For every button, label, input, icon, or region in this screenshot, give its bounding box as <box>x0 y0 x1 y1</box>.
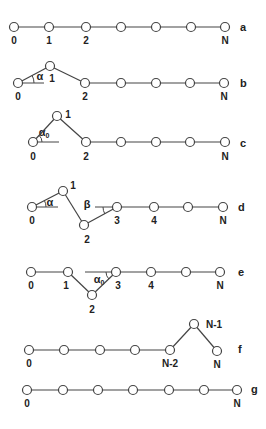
chain-node <box>190 320 199 329</box>
chain-node <box>94 386 103 395</box>
node-label: 2 <box>82 91 88 102</box>
node-label: 0 <box>28 280 34 291</box>
chain-node <box>117 138 126 147</box>
node-label: N <box>221 35 228 46</box>
row-d: αβ01234Nd <box>28 180 245 245</box>
row-c: α0012Nc <box>29 109 247 162</box>
node-label: N <box>220 91 227 102</box>
chain-node <box>117 79 126 88</box>
node-label: 2 <box>83 35 89 46</box>
chain-node <box>216 268 225 277</box>
node-label: 2 <box>89 304 95 315</box>
node-label: N-2 <box>162 358 179 369</box>
row-label: g <box>251 383 258 395</box>
chain-node <box>64 268 73 277</box>
chain-node <box>59 187 68 196</box>
node-label: N <box>216 280 223 291</box>
chain-node <box>81 79 90 88</box>
node-label: N <box>233 398 240 409</box>
chain-node <box>82 138 91 147</box>
node-label: 1 <box>65 109 71 120</box>
node-label: 2 <box>84 234 90 245</box>
chain-node <box>182 268 191 277</box>
node-label: 1 <box>46 35 52 46</box>
node-label: N-1 <box>206 319 223 330</box>
bond-line <box>57 116 86 142</box>
chain-node <box>29 138 38 147</box>
angle-subscript: 0 <box>45 132 49 139</box>
row-g: 0Ng <box>23 383 258 409</box>
node-label: 0 <box>24 398 30 409</box>
node-label: N <box>213 359 220 370</box>
angle-label: β <box>84 198 91 210</box>
angle-arc <box>32 75 34 83</box>
chain-node <box>25 346 34 355</box>
node-label: 4 <box>151 215 157 226</box>
node-label: 0 <box>30 151 36 162</box>
chain-node <box>131 346 140 355</box>
node-label: N <box>219 215 226 226</box>
node-label: N <box>221 151 228 162</box>
chain-node <box>117 23 126 32</box>
chain-node <box>200 386 209 395</box>
chain-node <box>186 79 195 88</box>
chain-node <box>23 386 32 395</box>
node-label: 1 <box>49 73 55 84</box>
chain-node <box>220 79 229 88</box>
chain-node <box>27 268 36 277</box>
chain-node <box>152 79 161 88</box>
chain-node <box>96 346 105 355</box>
chain-node <box>147 268 156 277</box>
node-label: 2 <box>83 151 89 162</box>
chain-node <box>129 386 138 395</box>
row-label: f <box>238 343 242 355</box>
angle-arc <box>106 272 109 279</box>
angle-label: α0 <box>39 126 50 139</box>
chain-node <box>152 138 161 147</box>
node-label: 0 <box>15 91 21 102</box>
row-label: b <box>240 77 247 89</box>
chain-node <box>82 23 91 32</box>
row-label: c <box>240 137 246 149</box>
row-e: α001234Ne <box>27 266 245 315</box>
chain-node <box>150 203 159 212</box>
chain-node <box>45 23 54 32</box>
chain-node <box>187 23 196 32</box>
row-label: a <box>240 21 247 33</box>
chain-node <box>113 203 122 212</box>
chain-node <box>10 23 19 32</box>
chain-node <box>186 138 195 147</box>
chain-node <box>60 346 69 355</box>
node-label: 3 <box>114 215 120 226</box>
chain-node <box>80 221 89 230</box>
chain-node <box>233 386 242 395</box>
row-label: d <box>238 201 245 213</box>
chain-node <box>88 291 97 300</box>
chain-node <box>213 347 222 356</box>
chain-node <box>112 268 121 277</box>
chain-node <box>152 23 161 32</box>
chain-node <box>221 23 230 32</box>
chain-node <box>14 79 23 88</box>
row-f: 0N-2N-1Nf <box>25 319 243 370</box>
chain-node <box>59 386 68 395</box>
bond-line <box>50 66 85 83</box>
chain-node <box>165 386 174 395</box>
node-label: 0 <box>26 358 32 369</box>
chain-node <box>166 346 175 355</box>
chain-node <box>184 203 193 212</box>
chain-diagram: 012Naα012Nbα0012Ncαβ01234Ndα001234Ne0N-2… <box>0 0 266 429</box>
bond-line <box>63 191 84 225</box>
chain-node <box>46 62 55 71</box>
row-a: 012Na <box>10 21 248 46</box>
node-label: 1 <box>63 280 69 291</box>
chain-node <box>219 203 228 212</box>
bond-line <box>170 324 194 350</box>
row-label: e <box>238 266 244 278</box>
row-b: α012Nb <box>14 62 248 103</box>
chain-node <box>53 112 62 121</box>
angle-arc <box>103 207 105 214</box>
node-label: 1 <box>70 180 76 191</box>
chain-node <box>221 138 230 147</box>
node-label: 0 <box>29 215 35 226</box>
